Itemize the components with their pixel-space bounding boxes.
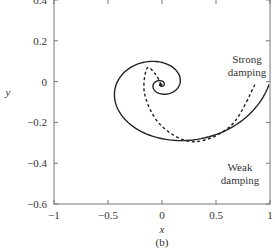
- y-tick-label: −0.4: [27, 157, 47, 169]
- y-tick-label: 0.4: [33, 0, 47, 6]
- y-tick-label: −0.6: [27, 198, 47, 210]
- strong-damping-label: Strong: [232, 53, 262, 65]
- y-axis-label: y: [5, 86, 11, 98]
- y-tick-label: 0.2: [33, 35, 47, 47]
- x-tick-label: 1: [267, 209, 273, 221]
- x-tick-label: −1: [48, 209, 60, 221]
- x-tick-label: 0: [159, 209, 165, 221]
- strong-damping-label: damping: [228, 66, 267, 78]
- figure-caption: (b): [156, 236, 169, 249]
- weak-damping-label: Weak: [228, 161, 253, 173]
- y-tick-label: −0.2: [27, 116, 47, 128]
- phase-portrait-chart: −1−0.500.510.40.20−0.2−0.4−0.6xy(b)Stron…: [0, 0, 275, 250]
- x-tick-label: 0.5: [209, 209, 223, 221]
- x-tick-label: −0.5: [98, 209, 118, 221]
- x-axis-label: x: [159, 223, 165, 235]
- weak-damping-label: damping: [221, 174, 260, 186]
- y-tick-label: 0: [42, 76, 48, 88]
- strong-damping-curve: [144, 67, 255, 141]
